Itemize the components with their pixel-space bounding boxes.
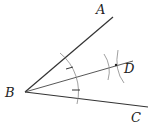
tick-mark-upper	[66, 67, 73, 69]
ray-BC	[25, 92, 148, 107]
ray-BA	[25, 17, 113, 92]
construction-arc-D2	[117, 50, 124, 83]
point-D	[115, 64, 117, 66]
angle-bisector-diagram: A B C D	[0, 0, 155, 127]
label-C: C	[131, 110, 141, 125]
construction-arc-D1	[104, 54, 109, 80]
label-D: D	[123, 61, 135, 76]
label-B: B	[4, 85, 15, 100]
label-A: A	[95, 2, 105, 17]
